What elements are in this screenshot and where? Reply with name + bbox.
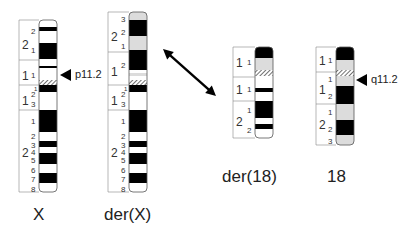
region-label: 1 bbox=[22, 94, 29, 108]
band-label: 2 bbox=[247, 126, 252, 135]
band-label: 6 bbox=[121, 166, 126, 175]
band-label: 1 bbox=[328, 108, 333, 117]
band-label: 1 bbox=[31, 46, 36, 55]
band bbox=[129, 80, 147, 85]
band-label: 1 bbox=[121, 42, 126, 51]
band-label: 5 bbox=[31, 156, 36, 165]
band bbox=[129, 70, 147, 73]
band-label: 1 bbox=[247, 85, 252, 94]
band-label: 2 bbox=[31, 27, 36, 36]
band bbox=[39, 110, 57, 132]
chromosome-X: 211221112312345678 bbox=[19, 20, 57, 194]
band bbox=[39, 141, 57, 147]
band-label: 2 bbox=[121, 28, 126, 37]
region-label: 2 bbox=[22, 38, 29, 52]
band bbox=[255, 129, 273, 138]
band bbox=[129, 76, 147, 80]
band-label: 2 bbox=[121, 61, 126, 70]
band bbox=[255, 88, 273, 92]
band bbox=[129, 12, 147, 20]
band-group bbox=[336, 47, 354, 145]
band bbox=[39, 68, 57, 80]
region-label: 1 bbox=[111, 94, 118, 108]
band-group bbox=[255, 47, 273, 138]
band bbox=[39, 132, 57, 141]
band bbox=[39, 85, 57, 92]
region-label: 1 bbox=[236, 56, 243, 70]
band-label: 2 bbox=[121, 132, 126, 141]
band-label: 3 bbox=[121, 100, 126, 109]
band-label: 1 bbox=[31, 71, 36, 80]
band bbox=[336, 135, 354, 145]
band bbox=[39, 147, 57, 153]
region-label: 1 bbox=[236, 83, 243, 97]
band bbox=[129, 183, 147, 192]
band bbox=[129, 73, 147, 76]
band bbox=[39, 80, 57, 85]
breakpoint-pointer-icon bbox=[60, 69, 71, 81]
band bbox=[39, 183, 57, 192]
band bbox=[39, 31, 57, 43]
band bbox=[336, 120, 354, 135]
chromosome-caption-X: X bbox=[33, 205, 44, 225]
band bbox=[336, 70, 354, 76]
band bbox=[39, 20, 57, 27]
band-label: 2 bbox=[121, 90, 126, 99]
band-label: 1 bbox=[247, 58, 252, 67]
band-label: 1 bbox=[328, 56, 333, 65]
band bbox=[39, 153, 57, 164]
band bbox=[39, 27, 57, 31]
chromosome-caption-der18: der(18) bbox=[222, 167, 277, 187]
band bbox=[129, 153, 147, 164]
chromosome-caption-derX: der(X) bbox=[104, 205, 151, 225]
band bbox=[39, 59, 57, 66]
band-label: 6 bbox=[31, 166, 36, 175]
band bbox=[336, 60, 354, 70]
region-label: 1 bbox=[22, 69, 29, 83]
band bbox=[39, 92, 57, 110]
band bbox=[129, 141, 147, 147]
band bbox=[255, 70, 273, 76]
breakpoint-pointer-icon bbox=[356, 74, 367, 86]
band-label: 3 bbox=[328, 137, 333, 146]
band bbox=[255, 101, 273, 118]
band bbox=[39, 173, 57, 183]
band bbox=[129, 147, 147, 153]
band-label: 8 bbox=[31, 185, 36, 194]
band bbox=[336, 76, 354, 86]
band bbox=[129, 36, 147, 50]
band bbox=[336, 104, 354, 120]
band bbox=[255, 76, 273, 88]
band-label: 2 bbox=[31, 132, 36, 141]
band-label: 2 bbox=[328, 92, 333, 101]
band-label: 3 bbox=[31, 100, 36, 109]
band-label: 3 bbox=[121, 15, 126, 24]
band bbox=[255, 47, 273, 58]
band-label: 5 bbox=[121, 156, 126, 165]
band-label: 1 bbox=[31, 117, 36, 126]
double-headed-arrow-icon bbox=[163, 49, 216, 96]
band-label: 8 bbox=[121, 185, 126, 194]
region-label: 2 bbox=[319, 118, 326, 132]
band bbox=[39, 43, 57, 59]
band bbox=[129, 92, 147, 110]
band bbox=[336, 47, 354, 60]
breakpoint-label: p11.2 bbox=[75, 68, 102, 80]
chromosome-caption-chr18: 18 bbox=[327, 167, 346, 187]
band bbox=[129, 173, 147, 183]
region-label: 1 bbox=[319, 54, 326, 68]
band-label: 7 bbox=[31, 175, 36, 184]
band bbox=[129, 85, 147, 92]
chromosome-der18: 1121112 bbox=[233, 47, 273, 138]
band bbox=[39, 66, 57, 68]
chromosome-chr18: 112112123 bbox=[316, 47, 354, 146]
band-group bbox=[39, 20, 57, 192]
region-label: 2 bbox=[236, 115, 243, 129]
band bbox=[255, 58, 273, 70]
region-label: 2 bbox=[111, 146, 118, 160]
region-label: 2 bbox=[111, 30, 118, 44]
band-label: 1 bbox=[247, 106, 252, 115]
region-label: 1 bbox=[111, 65, 118, 79]
band-group bbox=[129, 12, 147, 192]
breakpoint-label: q11.2 bbox=[371, 73, 398, 85]
